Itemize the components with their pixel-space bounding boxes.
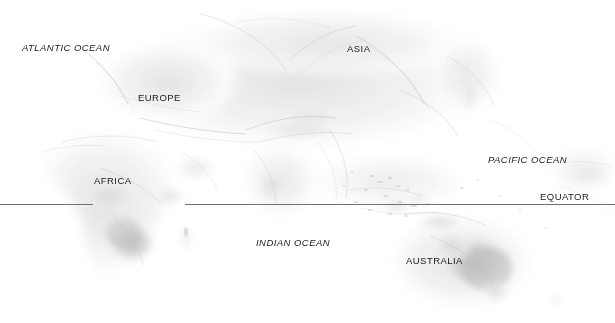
label-equator: EQUATOR (540, 192, 589, 202)
label-pacific-ocean: PACIFIC OCEAN (488, 155, 567, 165)
world-map-figure: ATLANTIC OCEAN EUROPE ASIA AFRICA PACIFI… (0, 0, 615, 323)
equator-line-segment-east (185, 204, 615, 205)
label-africa: AFRICA (94, 176, 132, 186)
label-europe: EUROPE (138, 93, 181, 103)
label-indian-ocean: INDIAN OCEAN (256, 238, 330, 248)
label-atlantic-ocean: ATLANTIC OCEAN (22, 43, 110, 53)
equator-line-segment-west (0, 204, 93, 205)
label-asia: ASIA (347, 44, 370, 54)
label-australia: AUSTRALIA (406, 256, 463, 266)
